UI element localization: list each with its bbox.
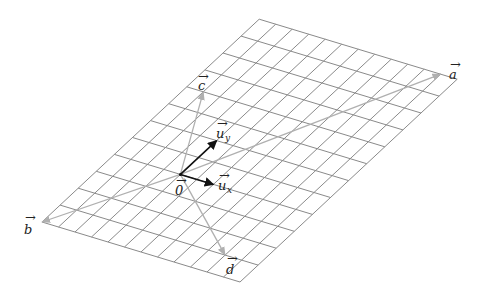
arrow-accent: → [176,173,187,188]
label-zero: 0 → [175,173,187,198]
arrow-accent: → [198,69,209,84]
label-c: c → [198,69,209,93]
arrow-accent: → [219,168,230,183]
arrow-accent: → [217,116,228,131]
arrow-accent: → [227,251,238,266]
label-b: b → [24,210,36,237]
arrow-accent: → [450,57,461,72]
label-ux-subscript: x [227,185,232,195]
label-uy-subscript: y [224,133,231,143]
vector-c-arrow [180,92,203,175]
skewed-grid [42,19,457,282]
basis-uy-arrow [180,141,216,175]
label-d: d → [226,251,238,277]
vector-grid-diagram: a → b → c → d → 0 → u x → u y → [0,0,480,300]
arrow-accent: → [25,210,36,225]
label-ux: u x → [218,168,232,195]
label-a: a → [449,57,461,82]
